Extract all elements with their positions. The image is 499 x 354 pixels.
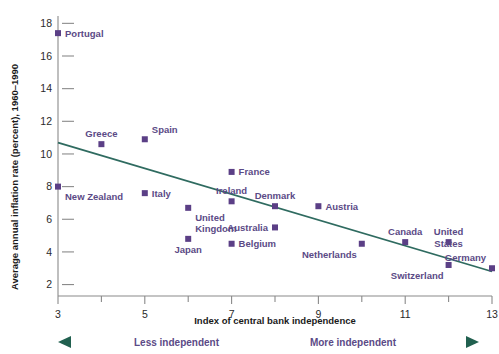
- data-point: Belgium: [229, 238, 276, 249]
- data-point: Austria: [315, 201, 358, 212]
- data-point: France: [229, 166, 270, 177]
- more-independent-arrow: [403, 336, 479, 348]
- more-independent-label: More independent: [310, 337, 397, 348]
- data-point: Ireland: [216, 185, 247, 204]
- x-tick-label: 3: [55, 308, 61, 320]
- y-tick-label: 14: [40, 82, 52, 94]
- y-tick-label: 12: [40, 115, 52, 127]
- data-point-marker: [272, 203, 278, 209]
- data-point-marker: [402, 239, 408, 245]
- data-point-label: France: [239, 166, 270, 177]
- data-point: UnitedStates: [434, 226, 464, 249]
- data-point-marker: [185, 205, 191, 211]
- y-axis-ticks: 24681012141618: [40, 17, 74, 290]
- data-point-marker: [142, 190, 148, 196]
- data-point-label: Japan: [174, 244, 202, 255]
- data-point: Italy: [142, 188, 172, 199]
- data-points: PortugalNew ZealandGreeceSpainItalyUnite…: [55, 28, 495, 281]
- data-point-marker: [229, 198, 235, 204]
- x-axis-title: Index of central bank independence: [194, 315, 356, 326]
- data-point-marker: [185, 236, 191, 242]
- y-tick-label: 2: [46, 278, 52, 290]
- data-point-label: Ireland: [216, 185, 247, 196]
- data-point: Switzerland: [391, 262, 452, 281]
- y-axis-label: Average annual inflation rate (percent),…: [9, 64, 20, 290]
- data-point-marker: [272, 224, 278, 230]
- y-axis-label-text: Average annual inflation rate (percent),…: [9, 64, 20, 290]
- data-point-label: Canada: [388, 226, 423, 237]
- data-point: Greece: [85, 128, 117, 147]
- scatter-chart: Average annual inflation rate (percent),…: [0, 0, 499, 354]
- data-point-marker: [489, 265, 495, 271]
- data-point-label: UnitedStates: [434, 226, 464, 249]
- data-point: Denmark: [255, 190, 296, 209]
- data-point-label: Germany: [445, 252, 487, 263]
- axes: [58, 16, 492, 296]
- data-point-marker: [229, 241, 235, 247]
- data-point-marker: [142, 136, 148, 142]
- y-tick-label: 18: [40, 17, 52, 29]
- data-point-marker: [315, 203, 321, 209]
- data-point-label: Denmark: [255, 190, 296, 201]
- data-point-label: Australia: [227, 222, 268, 233]
- data-point-label: Belgium: [239, 238, 276, 249]
- data-point-label: Spain: [152, 124, 178, 135]
- less-independent-arrow: [58, 336, 128, 348]
- data-point: Netherlands: [302, 241, 365, 260]
- data-point-marker: [55, 30, 61, 36]
- y-tick-label: 16: [40, 50, 52, 62]
- data-point-marker: [359, 241, 365, 247]
- data-point: Japan: [174, 236, 202, 255]
- x-tick-label: 11: [400, 308, 411, 320]
- data-point-label: Austria: [325, 201, 358, 212]
- y-tick-label: 4: [46, 246, 52, 258]
- data-point-label: Netherlands: [302, 249, 357, 260]
- y-tick-label: 10: [40, 148, 52, 160]
- data-point-marker: [55, 184, 61, 190]
- chart-canvas: Average annual inflation rate (percent),…: [0, 0, 499, 354]
- data-point: Germany: [445, 252, 495, 271]
- data-point-label: Portugal: [65, 28, 104, 39]
- data-point-label: Switzerland: [391, 270, 444, 281]
- data-point-label: Greece: [85, 128, 117, 139]
- y-tick-label: 6: [46, 213, 52, 225]
- data-point-marker: [98, 141, 104, 147]
- data-point: Portugal: [55, 28, 104, 39]
- y-tick-label: 8: [46, 180, 52, 192]
- x-tick-label: 5: [142, 308, 148, 320]
- data-point-marker: [229, 169, 235, 175]
- data-point-label: New Zealand: [65, 191, 123, 202]
- data-point: Australia: [227, 222, 278, 233]
- data-point-label: Italy: [152, 188, 172, 199]
- x-tick-label: 13: [486, 308, 498, 320]
- less-independent-label: Less independent: [134, 337, 220, 348]
- data-point: Spain: [142, 124, 178, 142]
